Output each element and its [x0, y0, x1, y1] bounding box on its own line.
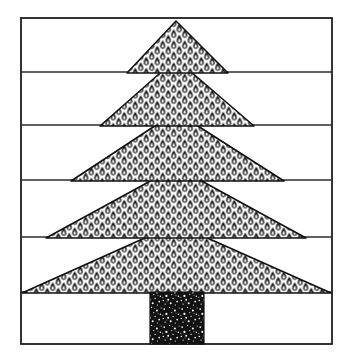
christmas-tree-illustration	[0, 0, 352, 357]
tree-trunk	[150, 292, 204, 344]
artboard: Christmas tree line drawing	[0, 0, 352, 357]
